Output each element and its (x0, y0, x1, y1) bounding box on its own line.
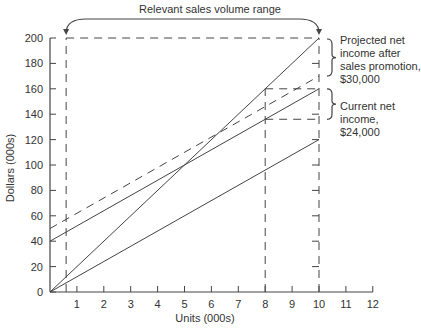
x-tick-label: 3 (128, 298, 134, 310)
y-tick-label: 120 (25, 134, 43, 146)
annotation-text: Projected net (340, 34, 421, 47)
y-tick-label: 100 (25, 159, 43, 171)
relevant-range-arc (66, 19, 319, 33)
plot-area: 0204060801001201401601802001234567891011… (25, 19, 379, 310)
x-tick-label: 1 (74, 298, 80, 310)
x-tick-label: 9 (289, 298, 295, 310)
y-tick-label: 40 (31, 235, 43, 247)
x-tick-label: 4 (155, 298, 161, 310)
y-tick-label: 160 (25, 83, 43, 95)
y-tick-label: 140 (25, 108, 43, 120)
x-tick-label: 12 (367, 298, 379, 310)
annotation-text: sales promotion, (340, 60, 421, 73)
x-tick-label: 5 (181, 298, 187, 310)
annotation-text: $30,000 (340, 73, 421, 86)
arrow-head-icon (63, 29, 69, 35)
current-income-brace (327, 89, 336, 119)
annotation-text: income, $24,000 (340, 113, 421, 139)
x-tick-label: 6 (208, 298, 214, 310)
annotation-text: income after (340, 47, 421, 60)
chart-title: Relevant sales volume range (139, 3, 281, 15)
y-tick-label: 60 (31, 210, 43, 222)
current-net-income-annotation: Current net income, $24,000 (340, 100, 421, 139)
projected-income-brace (327, 39, 336, 76)
x-tick-label: 2 (101, 298, 107, 310)
x-axis-label: Units (000s) (175, 312, 234, 324)
y-tick-label: 180 (25, 57, 43, 69)
x-tick-label: 10 (313, 298, 325, 310)
y-tick-label: 20 (31, 261, 43, 273)
y-tick-label: 200 (25, 32, 43, 44)
annotation-text: Current net (340, 100, 421, 113)
y-tick-label: 80 (31, 184, 43, 196)
series-line (50, 76, 319, 228)
x-tick-label: 8 (262, 298, 268, 310)
x-tick-label: 11 (340, 298, 351, 310)
series-line (50, 89, 319, 241)
y-axis-label: Dollars (000s) (4, 134, 16, 202)
y-tick-label: 0 (37, 286, 43, 298)
series-line (50, 140, 319, 292)
arrow-head-icon (316, 29, 322, 35)
projected-net-income-annotation: Projected net income after sales promoti… (340, 34, 421, 86)
x-tick-label: 7 (235, 298, 241, 310)
